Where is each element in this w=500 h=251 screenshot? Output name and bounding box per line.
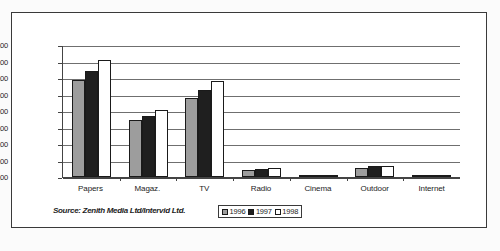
bar <box>211 81 224 177</box>
x-axis-tick-mark <box>403 177 404 181</box>
x-axis-tick-mark <box>120 177 121 181</box>
y-axis-tick-label: 4,00 <box>0 108 8 116</box>
x-axis-tick-mark <box>233 177 234 181</box>
bar <box>312 175 325 177</box>
bar <box>198 90 211 177</box>
chart-page: 0,001,002,003,004,005,006,007,008,00 Pap… <box>0 0 500 251</box>
bar-group <box>403 46 460 177</box>
x-axis-label: Radio <box>233 184 290 198</box>
bar-group <box>63 46 120 177</box>
x-axis-labels: PapersMagaz.TVRadioCinemaOutdoorInternet <box>62 184 460 198</box>
bar <box>381 166 394 177</box>
legend-swatch <box>222 209 228 215</box>
y-axis-tick-label: 6,00 <box>0 75 8 83</box>
legend-item: 1998 <box>275 208 298 216</box>
gridline <box>63 178 460 179</box>
bar <box>85 71 98 177</box>
bar <box>268 168 281 177</box>
bar-group <box>176 46 233 177</box>
chart-legend: 199619971998 <box>218 205 302 218</box>
legend-item: 1996 <box>222 208 245 216</box>
bar-groups <box>63 46 460 177</box>
bar <box>412 175 425 177</box>
legend-item: 1997 <box>248 208 271 216</box>
x-axis-label: Internet <box>403 184 460 198</box>
bar-group <box>120 46 177 177</box>
bar <box>98 60 111 177</box>
legend-swatch <box>248 209 254 215</box>
bar <box>425 175 438 177</box>
legend-label: 1997 <box>256 208 272 216</box>
y-axis-tick-label: 7,00 <box>0 59 8 67</box>
bar-group <box>290 46 347 177</box>
x-axis-tick-mark <box>347 177 348 181</box>
y-axis-tick-label: 5,00 <box>0 92 8 100</box>
bar <box>142 116 155 177</box>
x-axis-label: TV <box>176 184 233 198</box>
y-axis-tick-label: 0,00 <box>0 174 8 182</box>
x-axis-tick-mark <box>290 177 291 181</box>
bar-group <box>233 46 290 177</box>
x-axis-label: Papers <box>62 184 119 198</box>
bar-group <box>347 46 404 177</box>
x-axis-label: Cinema <box>289 184 346 198</box>
legend-label: 1996 <box>230 208 246 216</box>
bar <box>72 80 85 177</box>
bar <box>255 169 268 177</box>
y-axis-tick-mark <box>58 178 62 179</box>
bar <box>355 168 368 177</box>
bar <box>242 170 255 177</box>
bar <box>185 98 198 177</box>
bar <box>155 110 168 177</box>
y-axis-tick-label: 3,00 <box>0 125 8 133</box>
bar <box>438 175 451 177</box>
x-axis-tick-mark <box>176 177 177 181</box>
bar <box>325 175 338 177</box>
bar <box>368 166 381 177</box>
legend-label: 1998 <box>282 208 298 216</box>
source-note: Source: Zenith Media Ltd/Intervid Ltd. <box>53 206 185 215</box>
x-axis-label: Magaz. <box>119 184 176 198</box>
bar <box>129 120 142 177</box>
plot-area <box>62 46 460 178</box>
y-axis-tick-label: 2,00 <box>0 141 8 149</box>
x-axis-label: Outdoor <box>346 184 403 198</box>
y-axis-tick-label: 8,00 <box>0 42 8 50</box>
chart-frame: 0,001,002,003,004,005,006,007,008,00 Pap… <box>11 12 487 228</box>
y-axis-tick-label: 1,00 <box>0 158 8 166</box>
legend-swatch <box>275 209 281 215</box>
bar <box>299 175 312 177</box>
